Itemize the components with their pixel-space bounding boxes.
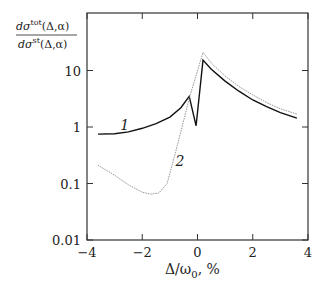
curve-label-2: 2 xyxy=(174,153,184,169)
y-tick-label: 0.1 xyxy=(60,177,81,192)
axis-ticks: −4−20240.010.1110 xyxy=(52,13,312,260)
x-tick-label: 4 xyxy=(304,245,312,260)
x-tick-label: −2 xyxy=(133,245,152,260)
y-axis-label-numerator: dσtot(Δ,α) xyxy=(16,18,69,33)
curve-label-1: 1 xyxy=(120,117,129,133)
y-tick-label: 10 xyxy=(64,64,81,79)
y-tick-label: 1 xyxy=(73,120,81,135)
chart: −4−20240.010.1110 12 dσtot(Δ,α) dσst(Δ,α… xyxy=(0,0,328,292)
y-tick-label: 0.01 xyxy=(52,233,81,248)
x-tick-label: 0 xyxy=(193,245,201,260)
x-tick-label: 2 xyxy=(249,245,257,260)
y-axis-label-denominator: dσst(Δ,α) xyxy=(18,36,67,51)
x-axis-label: Δ/ω0, % xyxy=(165,261,220,280)
